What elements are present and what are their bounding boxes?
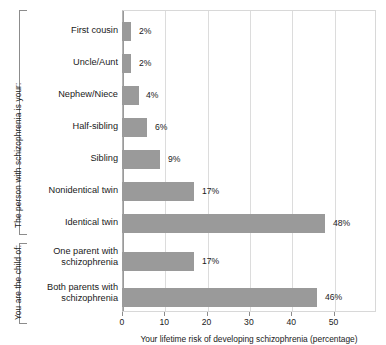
x-tick-0 <box>122 312 123 316</box>
table-row: Uncle/Aunt 2% <box>0 54 386 74</box>
bar-value-label: 48% <box>333 218 350 228</box>
x-tick-40 <box>291 312 292 316</box>
x-tick-label-0: 0 <box>110 317 134 327</box>
table-row: Identical twin 48% <box>0 214 386 234</box>
category-label: Half-sibling <box>30 121 118 132</box>
x-axis-title: Your lifetime risk of developing schizop… <box>122 334 376 344</box>
bar-value-label: 2% <box>139 26 151 36</box>
bar-value-label: 46% <box>325 292 342 302</box>
x-tick-label-50: 50 <box>322 317 346 327</box>
table-row: Nephew/Niece 4% <box>0 86 386 106</box>
bar-both-parents <box>122 288 317 307</box>
category-label-line1: Both parents with <box>47 282 118 292</box>
bar-value-label: 4% <box>146 90 158 100</box>
bar-value-label: 2% <box>139 58 151 68</box>
bar-value-label: 17% <box>202 186 219 196</box>
bar-first-cousin <box>122 22 131 41</box>
bar-identical-twin <box>122 214 325 233</box>
schizophrenia-risk-bar-chart: The person with schizophrenia is your: Y… <box>0 0 386 345</box>
x-tick-label-30: 30 <box>237 317 261 327</box>
bar-sibling <box>122 150 160 169</box>
category-label: Identical twin <box>30 217 118 228</box>
bar-one-parent <box>122 252 194 271</box>
category-label: First cousin <box>30 25 118 36</box>
x-tick-label-40: 40 <box>279 317 303 327</box>
bar-value-label: 6% <box>155 122 167 132</box>
x-tick-20 <box>207 312 208 316</box>
table-row: Half-sibling 6% <box>0 118 386 138</box>
table-row: Nonidentical twin 17% <box>0 182 386 202</box>
bar-value-label: 9% <box>168 154 180 164</box>
table-row: One parent with schizophrenia 17% <box>0 252 386 272</box>
x-tick-label-20: 20 <box>195 317 219 327</box>
category-label: Nephew/Niece <box>30 89 118 100</box>
bar-nephew-niece <box>122 86 139 105</box>
category-label: Sibling <box>30 153 118 164</box>
category-label: One parent with schizophrenia <box>30 246 118 267</box>
category-label: Nonidentical twin <box>30 185 118 196</box>
bar-nonidentical-twin <box>122 182 194 201</box>
table-row: Sibling 9% <box>0 150 386 170</box>
category-label: Both parents with schizophrenia <box>30 282 118 303</box>
x-tick-10 <box>164 312 165 316</box>
category-label-line2: schizophrenia <box>61 257 118 267</box>
table-row: Both parents with schizophrenia 46% <box>0 288 386 308</box>
x-tick-label-10: 10 <box>152 317 176 327</box>
category-label-line2: schizophrenia <box>61 293 118 303</box>
category-label: Uncle/Aunt <box>30 57 118 68</box>
x-tick-50 <box>334 312 335 316</box>
bar-half-sibling <box>122 118 147 137</box>
x-tick-30 <box>249 312 250 316</box>
table-row: First cousin 2% <box>0 22 386 42</box>
bar-uncle-aunt <box>122 54 131 73</box>
bar-value-label: 17% <box>202 256 219 266</box>
category-label-line1: One parent with <box>53 246 118 256</box>
